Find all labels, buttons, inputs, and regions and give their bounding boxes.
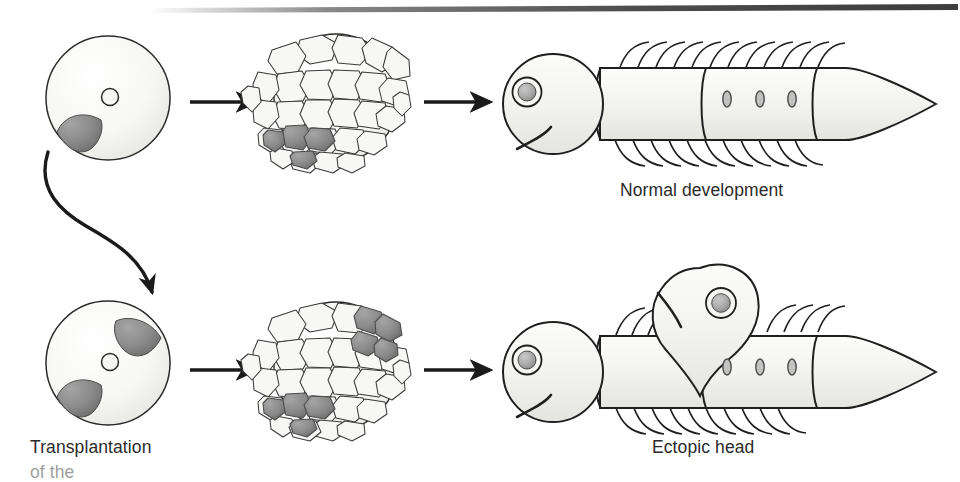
scan-edge-line (150, 4, 958, 13)
ventral-bristles-normal (615, 140, 823, 166)
stage-egg-normal (46, 36, 170, 160)
larva-trunk (600, 68, 936, 140)
larva-trunk-ectopic (600, 336, 936, 408)
nucleus (102, 354, 119, 371)
nucleus (102, 89, 119, 106)
stage-egg-transplanted (46, 301, 170, 425)
stage-blastula-normal (241, 34, 411, 173)
larva-eye-primary (513, 346, 542, 375)
caption-normal-development: Normal development (620, 180, 783, 201)
dorsal-bristles-right (767, 305, 845, 332)
ventral-bristles-ectopic (616, 408, 806, 434)
caption-ectopic-head: Ectopic head (652, 437, 754, 458)
stage-blastula-transplanted (241, 302, 411, 441)
stage-larva-ectopic (503, 265, 936, 434)
larva-eye (513, 78, 542, 107)
arrow-transplantation (45, 152, 152, 292)
caption-transplantation-cut: of the (30, 462, 74, 482)
stage-larva-normal (503, 42, 936, 166)
caption-transplantation: Transplantation (30, 437, 151, 458)
dorsal-bristles-normal (619, 42, 845, 70)
